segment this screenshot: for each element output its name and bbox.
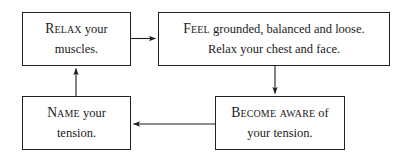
node-relax-line-1: Relax your: [45, 19, 108, 40]
node-relax-your-muscles: Relax your muscles.: [22, 12, 131, 66]
diagram-canvas: Relax your muscles. Feel grounded, balan…: [0, 0, 410, 163]
node-feel-grounded: Feel grounded, balanced and loose. Relax…: [158, 12, 390, 66]
node-become-line-2: your tension.: [247, 124, 312, 143]
node-name-line-1: Name your: [47, 103, 106, 124]
node-relax-line-2: muscles.: [55, 40, 98, 59]
node-become-rest-1: of: [315, 106, 329, 120]
node-become-smallcaps-1: Become aware: [231, 105, 315, 120]
node-feel-rest-1: grounded, balanced and loose.: [210, 22, 365, 36]
node-feel-smallcaps-1: Feel: [183, 21, 210, 36]
node-name-your-tension: Name your tension.: [22, 96, 131, 150]
node-relax-rest-1: your: [82, 22, 108, 36]
node-feel-line-2: Relax your chest and face.: [208, 40, 340, 59]
node-feel-line-1: Feel grounded, balanced and loose.: [183, 19, 364, 40]
node-name-line-2: tension.: [57, 124, 96, 143]
node-relax-smallcaps-1: Relax: [45, 21, 81, 36]
node-become-line-1: Become aware of: [231, 103, 329, 124]
node-name-smallcaps-1: Name: [47, 105, 80, 120]
node-become-aware: Become aware of your tension.: [215, 96, 345, 150]
node-name-rest-1: your: [80, 106, 106, 120]
